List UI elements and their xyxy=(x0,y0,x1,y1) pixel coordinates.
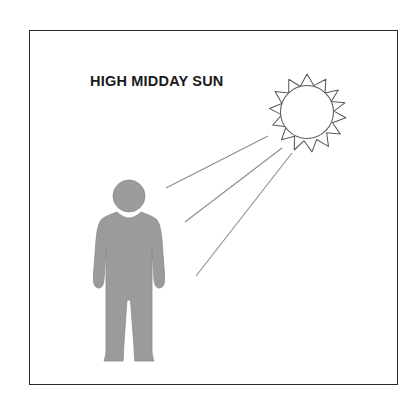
illustration-panel: HIGH MIDDAY SUN xyxy=(0,0,420,401)
diagram-canvas xyxy=(0,0,420,401)
sun-icon xyxy=(270,74,346,152)
person-body xyxy=(93,212,164,361)
sun-rays-to-person xyxy=(166,136,292,276)
caption-label: HIGH MIDDAY SUN xyxy=(90,73,224,89)
sun-disc xyxy=(281,86,334,139)
sun-ray-1 xyxy=(166,136,268,188)
person-head xyxy=(113,180,145,212)
sun-ray-3 xyxy=(196,153,292,276)
standing-person-silhouette xyxy=(93,180,164,361)
